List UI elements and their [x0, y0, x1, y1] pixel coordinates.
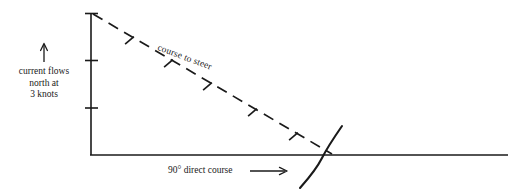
direct-course-label: 90° direct course	[168, 165, 232, 175]
direct-course-arrow-icon	[250, 167, 287, 174]
current-flow-label-line1: current flows	[4, 66, 84, 78]
course-to-steer-ticks	[125, 35, 298, 142]
navigation-vector-diagram: current flows north at 3 knots 90° direc…	[0, 0, 514, 195]
course-to-steer-line	[93, 14, 332, 154]
current-flow-label-line2: north at	[4, 78, 84, 90]
north-arrow-icon	[41, 44, 48, 63]
speed-arc	[300, 126, 342, 188]
current-flow-label: current flows north at 3 knots	[4, 66, 84, 101]
current-flow-label-line3: 3 knots	[4, 89, 84, 101]
